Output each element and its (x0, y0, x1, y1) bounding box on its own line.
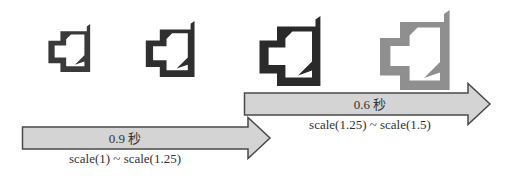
icon-scale-1-25-b (256, 11, 326, 91)
icon-scale-1-25 (143, 18, 199, 80)
phase-1-scale-range: scale(1) ~ scale(1.25) (45, 151, 205, 167)
icon-scale-1 (46, 22, 94, 74)
phase-2-scale-range: scale(1.25) ~ scale(1.5) (290, 117, 450, 133)
phase-1-duration: 0.9 秒 (90, 128, 160, 147)
phase-2-duration: 0.6 秒 (330, 94, 410, 113)
icon-scale-1-5 (376, 8, 456, 92)
